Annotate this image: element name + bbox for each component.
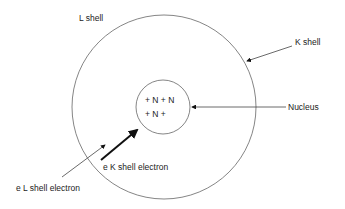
nucleus-circle (136, 80, 190, 134)
nucleus-label: Nucleus (288, 103, 319, 112)
k-shell-arrow (247, 46, 292, 61)
nucleus-content-row2: + N + (145, 110, 166, 119)
l-shell-label: L shell (79, 14, 103, 23)
k-electron-arrow (101, 130, 137, 160)
l-electron-label: e L shell electron (16, 184, 80, 193)
k-shell-label: K shell (295, 38, 321, 47)
k-electron-label: e K shell electron (103, 163, 168, 172)
nucleus-content-row1: + N + N (145, 96, 174, 105)
